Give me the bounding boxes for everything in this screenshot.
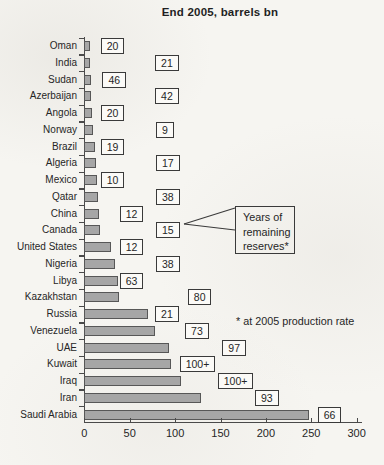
country-label: Algeria [0,157,77,169]
years-remaining-box: 20 [101,105,125,121]
reserve-bar [84,393,200,403]
callout-line-1: Years of [243,210,294,225]
country-label: Saudi Arabia [0,409,77,421]
reserve-bar [84,225,99,235]
years-remaining-box: 17 [156,155,180,171]
years-remaining-box: 38 [156,256,180,272]
y-axis-tick [79,356,85,357]
years-remaining-box: 9 [156,122,174,138]
callout-line-3: reserves* [243,239,294,254]
years-remaining-box: 46 [102,72,126,88]
years-remaining-box: 42 [155,88,179,104]
years-remaining-box: 12 [120,239,144,255]
reserve-bar [84,259,115,269]
reserve-bar [84,359,170,369]
y-axis-tick [79,54,85,55]
x-axis-tick [311,418,312,423]
years-remaining-box: 10 [101,172,125,188]
country-label: Canada [0,224,77,236]
years-remaining-box: 73 [185,323,209,339]
reserve-bar [84,410,309,420]
x-axis-tick-label: 100 [160,427,190,439]
country-label: Sudan [0,74,77,86]
country-label: Libya [0,275,77,287]
y-axis-tick [79,272,85,273]
x-axis-tick-label: 50 [115,427,145,439]
reserve-bar [84,343,168,353]
x-axis-tick-label: 0 [69,427,99,439]
x-axis-tick-label: 250 [296,427,326,439]
y-axis-tick [79,121,85,122]
y-axis-tick [79,255,85,256]
y-axis-tick [79,172,85,173]
x-axis-tick [221,418,222,423]
y-axis-tick [79,339,85,340]
x-axis-tick [266,418,267,423]
reserve-bar [84,75,90,85]
years-remaining-box: 21 [155,55,179,71]
y-axis-tick [79,406,85,407]
chart-title: End 2005, barrels bn [100,6,340,18]
years-remaining-box: 19 [101,139,125,155]
reserve-bar [84,376,180,386]
years-remaining-box: 21 [155,306,179,322]
years-remaining-box: 20 [101,38,125,54]
reserve-bar [84,142,95,152]
reserve-bar [84,58,89,68]
reserve-bar [84,125,93,135]
years-remaining-box: 63 [120,273,144,289]
x-axis-tick [357,418,358,423]
reserve-bar [84,292,119,302]
y-axis-tick [79,105,85,106]
callout-line-2: remaining [243,225,294,240]
country-label: Oman [0,40,77,52]
y-axis-tick [79,322,85,323]
callout-years-of-remaining-reserves: Years of remaining reserves* [235,206,295,254]
reserve-bar [84,309,148,319]
country-label: UAE [0,342,77,354]
y-axis-tick [79,205,85,206]
footnote-production-rate: * at 2005 production rate [236,315,354,327]
country-label: Nigeria [0,258,77,270]
x-axis-tick [130,418,131,423]
y-axis-tick [79,155,85,156]
years-remaining-box: 12 [120,206,144,222]
country-label: Azerbaijan [0,90,77,102]
reserve-bar [84,242,110,252]
y-axis-tick [79,306,85,307]
y-axis-tick [79,88,85,89]
reserve-bar [84,192,98,202]
country-label: Angola [0,107,77,119]
years-remaining-box: 100+ [180,356,216,372]
years-remaining-box: 100+ [218,373,254,389]
country-label: China [0,208,77,220]
y-axis-tick [79,389,85,390]
y-axis-tick [79,71,85,72]
years-remaining-box: 38 [156,189,180,205]
country-label: India [0,57,77,69]
country-label: Russia [0,308,77,320]
years-remaining-box: 80 [188,289,212,305]
x-axis-tick [84,418,85,423]
reserve-bar [84,175,97,185]
reserve-bar [84,326,155,336]
reserve-bar [84,209,99,219]
reserve-bar [84,108,92,118]
y-axis-tick [79,222,85,223]
reserve-bar [84,91,90,101]
years-remaining-box: 66 [318,407,342,423]
y-axis-tick [79,138,85,139]
country-label: Mexico [0,174,77,186]
country-label: Venezuela [0,325,77,337]
reserve-bar [84,158,96,168]
country-label: Kazakhstan [0,291,77,303]
reserve-bar [84,41,89,51]
y-axis-tick [79,373,85,374]
country-label: Iraq [0,375,77,387]
country-label: United States [0,241,77,253]
country-label: Qatar [0,191,77,203]
country-label: Iran [0,392,77,404]
x-axis-tick [175,418,176,423]
country-label: Brazil [0,141,77,153]
years-remaining-box: 97 [222,340,246,356]
